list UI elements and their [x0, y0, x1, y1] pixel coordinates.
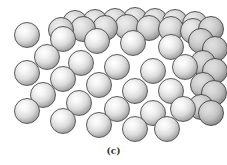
sphere-atom: [14, 22, 40, 48]
figure-caption: (c): [0, 146, 227, 156]
sphere-atom: [84, 28, 110, 54]
sphere-atom: [86, 72, 112, 98]
sphere-lattice-illustration: [0, 0, 227, 145]
sphere-atom: [120, 30, 146, 56]
sphere-atom: [14, 60, 40, 86]
sphere-atom: [172, 54, 198, 80]
sphere-atom: [198, 100, 224, 126]
sphere-atom: [14, 98, 40, 124]
sphere-atom: [50, 108, 76, 134]
sphere-atom: [154, 116, 180, 142]
sphere-atom: [86, 112, 112, 138]
sphere-atom: [122, 116, 148, 142]
